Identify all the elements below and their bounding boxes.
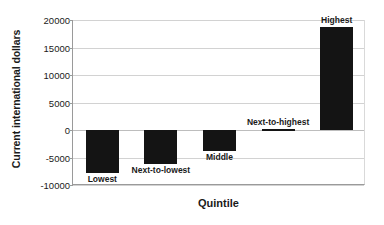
y-axis-tick-label: -10000 — [8, 180, 70, 191]
y-axis-tick-mark — [69, 130, 73, 131]
y-axis-tick-labels: 20000150001000050000-5000-10000 — [0, 0, 70, 225]
bar-category-label: Next-to-highest — [247, 117, 309, 127]
y-axis-tick-label: 20000 — [8, 15, 70, 26]
y-axis-tick-mark — [69, 185, 73, 186]
bar-category-label: Next-to-lowest — [132, 165, 191, 175]
y-axis-tick-label: 10000 — [8, 70, 70, 81]
bar — [262, 129, 295, 132]
plot-area: LowestNext-to-lowestMiddleNext-to-highes… — [72, 20, 365, 185]
y-axis-tick-mark — [69, 103, 73, 104]
bar — [86, 130, 119, 173]
bar-category-label: Lowest — [88, 174, 117, 184]
bar — [144, 130, 177, 164]
y-axis-tick-label: 5000 — [8, 97, 70, 108]
y-axis-tick-mark — [69, 20, 73, 21]
y-axis-tick-mark — [69, 75, 73, 76]
x-axis-title: Quintile — [72, 197, 365, 209]
bar — [320, 27, 353, 130]
gridline — [73, 185, 364, 186]
chart-figure: Current international dollars 2000015000… — [0, 0, 384, 225]
y-axis-tick-mark — [69, 48, 73, 49]
bar — [203, 130, 236, 151]
y-axis-tick-label: -5000 — [8, 152, 70, 163]
y-axis-tick-label: 0 — [8, 125, 70, 136]
y-axis-tick-label: 15000 — [8, 42, 70, 53]
bar-category-label: Highest — [321, 15, 352, 25]
bar-category-label: Middle — [206, 152, 233, 162]
y-axis-tick-mark — [69, 158, 73, 159]
